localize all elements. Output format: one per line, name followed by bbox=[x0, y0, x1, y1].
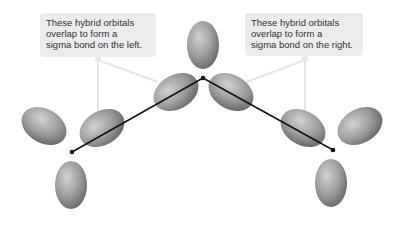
right-upper-left-lobe bbox=[274, 101, 333, 154]
center-nucleus-dot bbox=[201, 76, 206, 81]
left-callout-line-2: overlap to form a bbox=[46, 28, 150, 39]
left-callout-line-1: These hybrid orbitals bbox=[46, 17, 150, 28]
right-callout-line-3: sigma bond on the right. bbox=[251, 39, 357, 50]
right-callout-leader bbox=[246, 56, 308, 112]
right-callout-line-1: These hybrid orbitals bbox=[251, 17, 357, 28]
right-nucleus-dot bbox=[331, 148, 336, 153]
right-atom-orbitals bbox=[274, 99, 390, 207]
left-callout: These hybrid orbitals overlap to form a … bbox=[40, 13, 156, 57]
left-callout-line-3: sigma bond on the left. bbox=[46, 39, 150, 50]
center-right-lobe bbox=[202, 65, 261, 118]
center-atom-orbitals bbox=[147, 21, 261, 119]
right-callout: These hybrid orbitals overlap to form a … bbox=[245, 13, 363, 56]
right-upper-right-lobe bbox=[331, 99, 390, 152]
center-top-lobe bbox=[187, 21, 219, 69]
right-callout-line-2: overlap to form a bbox=[251, 28, 357, 39]
center-left-lobe bbox=[147, 65, 206, 118]
left-upper-left-lobe bbox=[15, 99, 74, 152]
left-callout-leader bbox=[95, 56, 158, 112]
left-nucleus-dot bbox=[70, 150, 75, 155]
right-sigma-bond-line bbox=[203, 78, 333, 150]
left-atom-orbitals bbox=[15, 99, 132, 209]
right-bottom-lobe bbox=[315, 159, 347, 207]
left-bottom-lobe bbox=[55, 161, 87, 209]
